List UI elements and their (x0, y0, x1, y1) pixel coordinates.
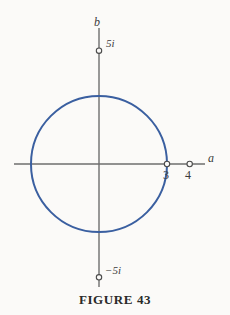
figure-43-container: b a 5i −5i 3 4 FIGURE 43 (0, 0, 230, 315)
point-marker-neg5i (96, 275, 101, 280)
point-marker-5i (96, 48, 101, 53)
tick-label-negative-5i: −5i (105, 265, 121, 276)
tick-label-3: 3 (163, 169, 169, 181)
tick-label-5i: 5i (106, 38, 115, 49)
figure-caption: FIGURE 43 (0, 292, 230, 308)
tick-label-4: 4 (185, 169, 191, 181)
point-marker-3 (164, 161, 169, 166)
point-marker-4 (187, 161, 192, 166)
axis-label-b: b (94, 16, 100, 28)
axis-label-a: a (208, 152, 214, 164)
